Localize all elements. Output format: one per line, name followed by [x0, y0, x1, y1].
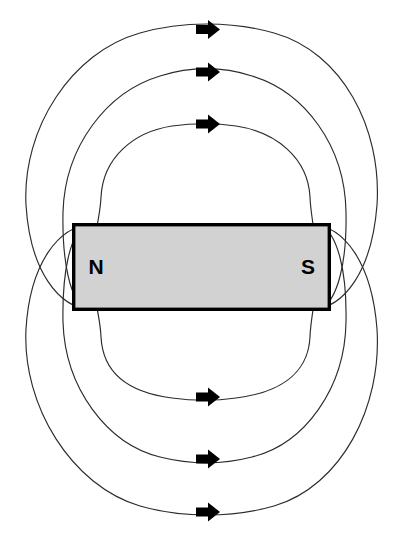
arrow-outer-bottom	[196, 503, 220, 522]
south-pole-label: S	[301, 255, 315, 278]
bar-magnet: N S	[74, 225, 330, 310]
arrow-middle-bottom	[196, 450, 220, 469]
field-diagram-canvas: N S	[0, 0, 405, 548]
north-pole-label: N	[88, 255, 103, 278]
arrow-inner-bottom	[196, 388, 220, 407]
arrow-middle-top	[196, 63, 220, 82]
magnetic-field-diagram: N S	[0, 0, 405, 548]
arrow-inner-top	[196, 115, 220, 134]
arrow-outer-top	[196, 20, 220, 39]
magnet-body-rect	[74, 225, 330, 310]
